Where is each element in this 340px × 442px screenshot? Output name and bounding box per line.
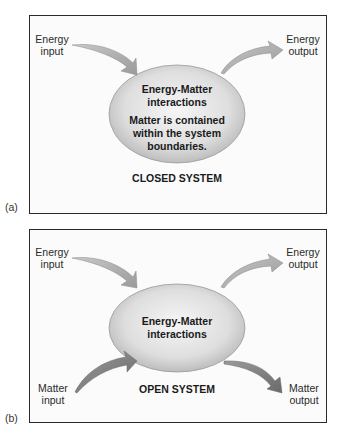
energy-input-arrow-icon [72,257,137,288]
energy-input-arrow-icon [72,44,137,75]
open-system-title: OPEN SYSTEM [117,383,237,395]
matter-input-label: Matterinput [33,382,73,406]
closed-system-title: CLOSED SYSTEM [117,172,237,184]
energy-output-label: Energyoutput [282,246,324,270]
ellipse-note: Matter is containedwithin the systemboun… [117,114,237,153]
energy-input-label: Energyinput [32,246,72,270]
ellipse-title: Energy-Matterinteractions [117,83,237,109]
panel-label-a: (a) [5,201,18,213]
panel-label-b: (b) [5,412,18,424]
energy-input-label: Energyinput [32,33,72,57]
energy-output-arrow-icon [221,254,283,288]
matter-output-label: Matteroutput [283,382,325,406]
diagram-shapes [0,0,340,442]
ellipse-title: Energy-Matterinteractions [117,315,237,341]
energy-output-label: Energyoutput [282,33,324,57]
energy-output-arrow-icon [221,41,283,74]
